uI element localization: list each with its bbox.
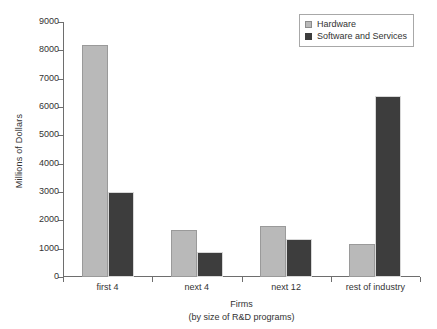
x-tick-mark	[63, 277, 64, 282]
y-tick-label: 4000	[39, 158, 59, 168]
y-axis-line	[63, 22, 64, 277]
x-tick-mark	[242, 277, 243, 282]
x-axis-subtitle: (by size of R&D programs)	[63, 312, 420, 322]
legend-label: Hardware	[317, 19, 356, 30]
legend-swatch-software-icon	[305, 33, 312, 40]
legend-item[interactable]: Software and Services	[305, 30, 407, 42]
y-tick-label: 2000	[39, 214, 59, 224]
bar-hardware	[171, 230, 197, 277]
y-tick-label: 1000	[39, 243, 59, 253]
bar-hardware	[260, 226, 286, 277]
x-axis-title: Firms	[63, 299, 420, 309]
x-category-label: next 12	[271, 282, 301, 292]
y-tick-label: 8000	[39, 44, 59, 54]
bar-software	[197, 252, 223, 277]
x-category-label: first 4	[97, 282, 119, 292]
bar-hardware	[82, 45, 108, 277]
bar-software	[286, 239, 312, 277]
x-tick-mark	[420, 277, 421, 282]
y-tick-label: 7000	[39, 73, 59, 83]
x-category-label: rest of industry	[346, 282, 405, 292]
y-tick-label: 0	[54, 271, 59, 281]
y-tick-label: 5000	[39, 129, 59, 139]
x-tick-mark	[331, 277, 332, 282]
bar-software	[375, 96, 401, 277]
y-tick-label: 3000	[39, 186, 59, 196]
x-tick-mark	[152, 277, 153, 282]
x-category-label: next 4	[185, 282, 210, 292]
y-tick-label: 9000	[39, 16, 59, 26]
legend-label: Software and Services	[317, 31, 407, 42]
legend-swatch-hardware-icon	[305, 21, 312, 28]
plot-area: 0100020003000400050006000700080009000	[63, 22, 420, 277]
y-axis-title: Millions of Dollars	[14, 61, 24, 241]
legend-item[interactable]: Hardware	[305, 18, 407, 30]
legend: HardwareSoftware and Services	[299, 14, 414, 47]
y-tick-label: 6000	[39, 101, 59, 111]
bar-chart: Millions of Dollars 01000200030004000500…	[0, 0, 437, 329]
bar-software	[108, 192, 134, 277]
bar-hardware	[349, 244, 375, 277]
